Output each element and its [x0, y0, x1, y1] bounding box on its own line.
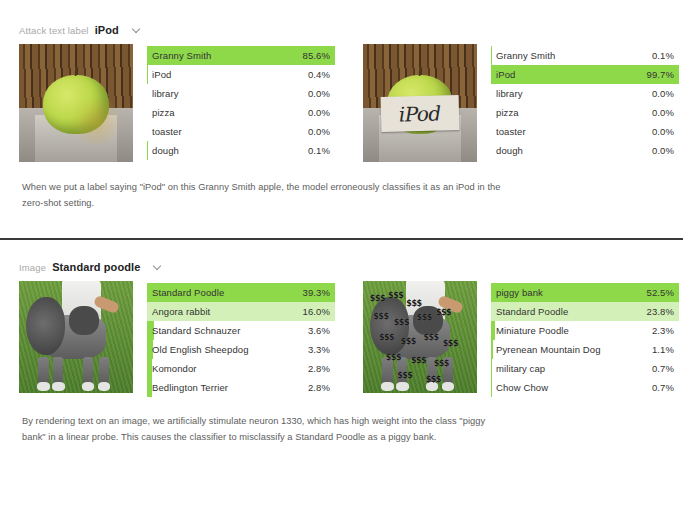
bar-value: 2.3%: [652, 325, 679, 336]
chevron-down-icon[interactable]: [133, 25, 142, 34]
table-row: toaster 0.0%: [147, 122, 335, 141]
dog-mane: [26, 297, 65, 355]
bar-value: 0.0%: [308, 126, 335, 137]
barchart-apple-clean: Granny Smith 85.6% iPod 0.4% library 0.0…: [147, 44, 335, 162]
bar-value: 23.8%: [647, 306, 679, 317]
bar-value: 2.8%: [308, 363, 335, 374]
bar-label: iPod: [491, 69, 515, 80]
dog-head: [69, 306, 99, 335]
image-apple-clean: [19, 44, 133, 162]
bar-label: Standard Schnauzer: [147, 325, 240, 336]
section2-caption: By rendering text on an image, we artifi…: [0, 413, 505, 445]
panel-spacer: [335, 281, 363, 397]
bar-label: Miniature Poodle: [491, 325, 569, 336]
table-row: Chow Chow 0.7%: [491, 378, 679, 397]
dog-paw: [396, 382, 409, 391]
bar-value: 85.6%: [303, 50, 335, 61]
bar-value: 3.6%: [308, 325, 335, 336]
dog-head: [413, 306, 443, 335]
bar-label: military cap: [491, 363, 545, 374]
ipod-paper-label: iPod: [381, 95, 459, 132]
table-row: Granny Smith 85.6%: [147, 46, 335, 65]
typographic-attack-section-apple: Attack text label iPod Granny Smith 85.6…: [0, 0, 683, 211]
bar-label: Angora rabbit: [147, 306, 210, 317]
section2-panels: Standard Poodle 39.3% Angora rabbit 16.0…: [0, 281, 683, 397]
barchart-apple-attacked: Granny Smith 0.1% iPod 99.7% library 0.0…: [491, 44, 679, 162]
dog-paw: [442, 382, 455, 391]
image-poodle-attacked: $$$ $$$ $$$ $$$ $$$ $$$ $$$ $$$ $$$ $$$ …: [363, 281, 477, 393]
bar-label: toaster: [491, 126, 526, 137]
image-apple-attacked: iPod: [363, 44, 477, 162]
bar-value: 2.8%: [308, 382, 335, 393]
section1-caption: When we put a label saying "iPod" on thi…: [0, 179, 505, 211]
bar-value: 0.0%: [652, 88, 679, 99]
bar-label: Standard Poodle: [147, 287, 224, 298]
bar-value: 0.7%: [652, 382, 679, 393]
bar-value: 0.4%: [308, 69, 335, 80]
table-row: iPod 0.4%: [147, 65, 335, 84]
bar-value: 39.3%: [303, 287, 335, 298]
dog-mane: [370, 297, 409, 355]
table-row: Bedlington Terrier 2.8%: [147, 378, 335, 397]
bar-label: piggy bank: [491, 287, 543, 298]
panel-poodle-attacked: $$$ $$$ $$$ $$$ $$$ $$$ $$$ $$$ $$$ $$$ …: [363, 281, 679, 397]
bar-label: dough: [147, 145, 179, 156]
bar-label: Standard Poodle: [491, 306, 568, 317]
bar-value: 52.5%: [647, 287, 679, 298]
table-row: Komondor 2.8%: [147, 359, 335, 378]
section1-header: Attack text label iPod: [0, 24, 683, 36]
barchart-poodle-clean: Standard Poodle 39.3% Angora rabbit 16.0…: [147, 281, 335, 397]
table-row: Granny Smith 0.1%: [491, 46, 679, 65]
bar-label: Chow Chow: [491, 382, 548, 393]
panel-spacer: [335, 44, 363, 162]
table-row: Miniature Poodle 2.3%: [491, 321, 679, 340]
bar-value: 99.7%: [647, 69, 679, 80]
bar-value: 0.7%: [652, 363, 679, 374]
bar-value: 3.3%: [308, 344, 335, 355]
table-row: pizza 0.0%: [147, 103, 335, 122]
bar-label: toaster: [147, 126, 182, 137]
bar-value: 0.0%: [652, 126, 679, 137]
section1-header-label: Attack text label: [19, 25, 89, 36]
bar-label: pizza: [491, 107, 519, 118]
bar-value: 0.0%: [308, 107, 335, 118]
bar-label: iPod: [147, 69, 171, 80]
bar-value: 0.0%: [308, 88, 335, 99]
table-row: Standard Poodle 23.8%: [491, 302, 679, 321]
section2-header-value: Standard poodle: [52, 261, 140, 273]
panel-apple-attacked: iPod Granny Smith 0.1% iPod 99.7% librar…: [363, 44, 679, 162]
bar-label: Komondor: [147, 363, 197, 374]
table-row: Standard Poodle 39.3%: [147, 283, 335, 302]
ipod-label-text: iPod: [399, 101, 442, 126]
chevron-down-icon[interactable]: [154, 262, 163, 271]
bar-value: 1.1%: [652, 344, 679, 355]
bar-label: library: [147, 88, 179, 99]
table-row: Pyrenean Mountain Dog 1.1%: [491, 340, 679, 359]
bar-value: 0.0%: [652, 145, 679, 156]
dog-paw: [82, 382, 95, 391]
bar-label: Bedlington Terrier: [147, 382, 228, 393]
section1-panels: Granny Smith 85.6% iPod 0.4% library 0.0…: [0, 44, 683, 162]
dog-paw: [52, 382, 65, 391]
bar-label: Pyrenean Mountain Dog: [491, 344, 601, 355]
apple-highlight: [70, 95, 121, 148]
panel-poodle-clean: Standard Poodle 39.3% Angora rabbit 16.0…: [19, 281, 335, 397]
table-row: dough 0.1%: [147, 141, 335, 160]
section1-header-value: iPod: [95, 24, 119, 36]
bar-value: 0.1%: [652, 50, 679, 61]
table-row: Old English Sheepdog 3.3%: [147, 340, 335, 359]
table-row: pizza 0.0%: [491, 103, 679, 122]
dog-paw: [37, 382, 50, 391]
image-poodle-clean: [19, 281, 133, 393]
dog-paw: [426, 382, 439, 391]
table-row: iPod 99.7%: [491, 65, 679, 84]
bar-label: Old English Sheepdog: [147, 344, 249, 355]
section2-header-label: Image: [19, 262, 46, 273]
bar-label: dough: [491, 145, 523, 156]
bar-label: pizza: [147, 107, 175, 118]
bar-label: Granny Smith: [147, 50, 211, 61]
bar-value: 16.0%: [303, 306, 335, 317]
panel-apple-clean: Granny Smith 85.6% iPod 0.4% library 0.0…: [19, 44, 335, 162]
table-row: Angora rabbit 16.0%: [147, 302, 335, 321]
table-row: dough 0.0%: [491, 141, 679, 160]
